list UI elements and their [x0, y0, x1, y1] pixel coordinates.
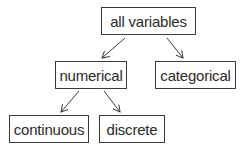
node-categorical: categorical: [155, 61, 236, 89]
node-label: all variables: [110, 13, 187, 30]
node-all-variables: all variables: [101, 7, 196, 35]
arrow-numerical-to-continuous: [61, 91, 79, 112]
arrow-all-to-numerical: [102, 38, 125, 58]
node-discrete: discrete: [99, 115, 165, 143]
node-continuous: continuous: [9, 115, 89, 143]
node-label: categorical: [160, 67, 230, 84]
arrow-all-to-categorical: [167, 38, 183, 58]
node-label: continuous: [14, 121, 85, 138]
arrow-numerical-to-discrete: [104, 91, 120, 112]
node-label: discrete: [107, 121, 158, 138]
node-label: numerical: [59, 67, 122, 84]
node-numerical: numerical: [55, 61, 127, 89]
